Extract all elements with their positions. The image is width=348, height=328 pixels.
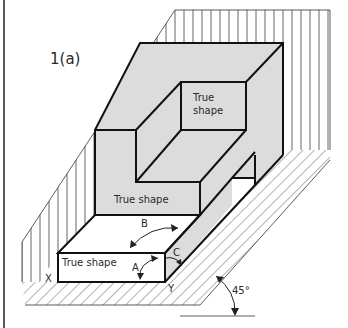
auxiliary-view-diagram: 1(a) True shape True shape True shape B … [0,0,348,328]
upper-true-shape-label-2: shape [193,105,223,116]
angle-b-arc [130,228,178,248]
angle-c-label: C [173,247,180,258]
angle-b-label: B [141,218,148,229]
angle-a-label: A [132,262,139,273]
front-true-shape-label: True shape [61,257,117,268]
upper-true-shape-label-1: True [192,92,214,103]
middle-true-shape-label: True shape [113,194,169,205]
figure-label: 1(a) [50,50,80,68]
point-x-label: X [45,273,52,284]
point-y-label: Y [167,283,175,294]
inclination-angle-label: 45° [232,285,250,296]
